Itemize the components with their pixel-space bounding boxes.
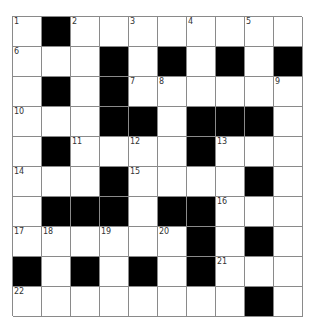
crossword-cell[interactable]: 11 [71,137,100,167]
clue-number: 5 [246,18,251,26]
crossword-cell[interactable] [71,167,100,197]
crossword-cell[interactable] [274,197,303,227]
crossword-cell[interactable] [100,287,129,317]
crossword-cell[interactable] [71,107,100,137]
crossword-cell[interactable]: 5 [245,17,274,47]
crossword-cell[interactable] [129,47,158,77]
clue-number: 18 [43,228,53,236]
clue-number: 6 [14,48,19,56]
crossword-cell[interactable] [13,197,42,227]
black-square [42,77,71,107]
crossword-cell[interactable] [274,17,303,47]
crossword-cell[interactable] [274,167,303,197]
crossword-cell[interactable]: 22 [13,287,42,317]
black-square [187,107,216,137]
crossword-cell[interactable] [274,287,303,317]
crossword-cell[interactable] [42,47,71,77]
crossword-cell[interactable] [13,137,42,167]
crossword-cell[interactable] [158,107,187,137]
crossword-cell[interactable] [100,17,129,47]
crossword-cell[interactable] [245,197,274,227]
black-square [245,167,274,197]
crossword-cell[interactable] [42,107,71,137]
black-square [187,227,216,257]
crossword-cell[interactable] [216,77,245,107]
crossword-cell[interactable] [42,257,71,287]
crossword-cell[interactable] [245,257,274,287]
crossword-cell[interactable] [274,107,303,137]
crossword-cell[interactable]: 7 [129,77,158,107]
crossword-cell[interactable] [216,167,245,197]
crossword-cell[interactable] [158,287,187,317]
crossword-cell[interactable] [158,167,187,197]
crossword-cell[interactable]: 8 [158,77,187,107]
crossword-cell[interactable] [71,227,100,257]
crossword-cell[interactable] [187,77,216,107]
crossword-cell[interactable] [216,227,245,257]
clue-number: 16 [217,198,227,206]
crossword-cell[interactable]: 9 [274,77,303,107]
crossword-cell[interactable]: 1 [13,17,42,47]
black-square [274,47,303,77]
crossword-cell[interactable] [129,227,158,257]
clue-number: 8 [159,78,164,86]
crossword-cell[interactable] [187,167,216,197]
crossword-cell[interactable] [71,77,100,107]
crossword-cell[interactable]: 13 [216,137,245,167]
crossword-cell[interactable] [216,287,245,317]
crossword-cell[interactable] [158,137,187,167]
black-square [42,137,71,167]
black-square [100,107,129,137]
clue-number: 11 [72,138,82,146]
black-square [245,287,274,317]
crossword-cell[interactable]: 16 [216,197,245,227]
crossword-cell[interactable] [187,47,216,77]
crossword-cell[interactable] [245,47,274,77]
crossword-cell[interactable]: 3 [129,17,158,47]
crossword-cell[interactable]: 21 [216,257,245,287]
black-square [245,107,274,137]
crossword-cell[interactable]: 6 [13,47,42,77]
crossword-cell[interactable] [42,287,71,317]
crossword-cell[interactable] [158,17,187,47]
crossword-cell[interactable] [245,137,274,167]
crossword-cell[interactable]: 18 [42,227,71,257]
black-square [187,137,216,167]
crossword-cell[interactable] [100,257,129,287]
crossword-cell[interactable]: 10 [13,107,42,137]
crossword-cell[interactable] [187,287,216,317]
crossword-cell[interactable]: 14 [13,167,42,197]
black-square [100,47,129,77]
crossword-cell[interactable] [274,137,303,167]
crossword-cell[interactable] [158,257,187,287]
crossword-cell[interactable] [71,287,100,317]
crossword-cell[interactable]: 17 [13,227,42,257]
crossword-cell[interactable] [100,137,129,167]
crossword-cell[interactable] [274,227,303,257]
crossword-cell[interactable]: 12 [129,137,158,167]
crossword-cell[interactable] [245,77,274,107]
clue-number: 9 [275,78,280,86]
black-square [158,47,187,77]
crossword-cell[interactable] [274,257,303,287]
crossword-cell[interactable] [13,77,42,107]
clue-number: 13 [217,138,227,146]
crossword-cell[interactable] [129,197,158,227]
crossword-cell[interactable] [129,287,158,317]
crossword-cell[interactable]: 19 [100,227,129,257]
crossword-cell[interactable] [216,17,245,47]
black-square [100,197,129,227]
black-square [71,257,100,287]
clue-number: 14 [14,168,24,176]
crossword-cell[interactable] [71,47,100,77]
black-square [42,17,71,47]
crossword-cell[interactable]: 2 [71,17,100,47]
crossword-cell[interactable]: 20 [158,227,187,257]
crossword-cell[interactable] [42,167,71,197]
clue-number: 19 [101,228,111,236]
clue-number: 1 [14,18,19,26]
crossword-cell[interactable]: 15 [129,167,158,197]
clue-number: 10 [14,108,24,116]
crossword-cell[interactable]: 4 [187,17,216,47]
clue-number: 4 [188,18,193,26]
